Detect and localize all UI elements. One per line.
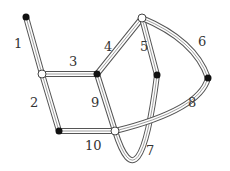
node-A (23, 14, 30, 21)
edge-label-5: 5 (140, 39, 148, 54)
edge-label-9: 9 (91, 95, 99, 110)
graph-diagram: 12345678910 (0, 0, 230, 171)
edge-label-8: 8 (188, 95, 196, 110)
edge-label-4: 4 (104, 39, 112, 54)
edge-9 (97, 74, 115, 131)
edge-2 (42, 74, 59, 131)
edge-9-edge-mid (97, 74, 115, 131)
node-G (56, 128, 63, 135)
node-E (154, 72, 161, 79)
edge-label-1: 1 (14, 36, 22, 51)
edge-2-edge-mid (42, 74, 59, 131)
node-F (205, 75, 212, 82)
edge-1-edge-mid (26, 17, 42, 74)
node-B (38, 70, 46, 78)
edge-label-6: 6 (198, 34, 206, 49)
node-C (94, 71, 101, 78)
edge-label-10: 10 (85, 138, 102, 153)
edge-label-7: 7 (146, 143, 154, 158)
edge-1 (26, 17, 42, 74)
node-H (111, 127, 119, 135)
edge-label-2: 2 (30, 95, 38, 110)
node-D (138, 14, 146, 22)
edge-label-3: 3 (69, 54, 77, 69)
